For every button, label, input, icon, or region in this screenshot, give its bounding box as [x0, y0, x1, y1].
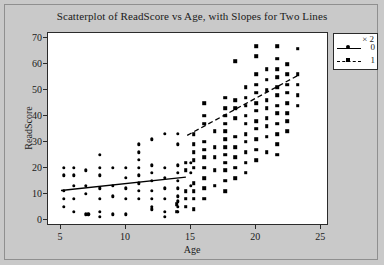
data-point-1 [192, 132, 196, 136]
x-tick-mark [320, 225, 321, 229]
data-point-1 [234, 176, 238, 180]
legend: × 2 01 [333, 33, 378, 70]
data-point-1 [254, 83, 258, 87]
data-point-1 [192, 166, 196, 170]
data-point-1 [234, 145, 238, 149]
y-tick-mark [43, 115, 47, 116]
y-tick-mark [43, 141, 47, 142]
data-point-1 [254, 119, 258, 123]
data-point-1 [296, 83, 300, 87]
x-tick-label: 10 [110, 231, 140, 242]
data-point-1 [286, 101, 290, 105]
fit-line-1 [187, 75, 298, 135]
data-point-1 [184, 205, 188, 209]
data-point-1 [192, 181, 196, 185]
y-tick-label: 60 [18, 58, 42, 69]
data-point-1 [286, 91, 290, 95]
data-point-1 [286, 112, 290, 116]
data-point-1 [202, 187, 206, 191]
data-point-1 [286, 62, 290, 66]
data-point-1 [192, 158, 196, 162]
data-point-1 [275, 143, 279, 147]
data-point-1 [254, 158, 258, 162]
y-tick-label: 20 [18, 161, 42, 172]
data-point-1 [275, 93, 279, 97]
x-tick-label: 25 [305, 231, 335, 242]
data-point-1 [244, 122, 248, 126]
data-point-1 [223, 106, 227, 110]
data-point-1 [202, 156, 206, 160]
data-point-1 [202, 148, 206, 152]
data-point-1 [223, 169, 227, 173]
x-tick-mark [60, 225, 61, 229]
data-point-1 [223, 122, 227, 126]
data-point-1 [213, 169, 217, 173]
data-point-1 [244, 132, 248, 136]
data-point-1 [213, 130, 217, 134]
data-point-1 [223, 161, 227, 165]
data-point-1 [275, 112, 279, 116]
data-point-1 [234, 156, 238, 160]
data-point-1 [223, 189, 227, 193]
plot-area [47, 32, 328, 225]
legend-marker-square [346, 58, 350, 62]
y-tick-label: 40 [18, 109, 42, 120]
data-point-1 [192, 197, 196, 201]
data-point-1 [244, 86, 248, 90]
data-point-1 [286, 83, 290, 87]
data-point-1 [244, 171, 248, 175]
data-point-1 [223, 96, 227, 100]
data-point-1 [265, 150, 269, 154]
y-tick-label: 70 [18, 32, 42, 43]
chart-title: Scatterplot of ReadScore vs Age, with Sl… [0, 10, 384, 22]
data-point-1 [286, 73, 290, 77]
legend-item-0[interactable]: 0 [334, 43, 379, 54]
data-point-1 [275, 57, 279, 61]
data-point-1 [192, 150, 196, 154]
data-point-1 [184, 189, 188, 193]
data-point-1 [254, 137, 258, 141]
data-point-1 [265, 106, 269, 110]
legend-item-1[interactable]: 1 [334, 56, 379, 67]
data-point-1 [286, 119, 290, 123]
data-point-1 [192, 189, 196, 193]
data-point-1 [234, 166, 238, 170]
y-tick-mark [43, 89, 47, 90]
data-point-1 [275, 132, 279, 136]
y-tick-mark [43, 193, 47, 194]
data-point-1 [184, 169, 188, 173]
data-point-1 [265, 67, 269, 71]
data-point-1 [213, 184, 217, 188]
data-point-1 [286, 130, 290, 134]
data-point-1 [184, 197, 188, 201]
data-point-1 [296, 73, 300, 77]
data-point-1 [213, 145, 217, 149]
legend-label-1: 1 [371, 55, 376, 65]
data-point-1 [254, 91, 258, 95]
data-point-1 [175, 202, 179, 206]
y-tick-label: 0 [18, 213, 42, 224]
data-point-1 [265, 88, 269, 92]
data-point-1 [223, 179, 227, 183]
data-point-1 [234, 60, 238, 64]
data-point-1 [244, 96, 248, 100]
data-point-1 [275, 75, 279, 79]
data-point-1 [296, 104, 300, 108]
data-point-1 [254, 148, 258, 152]
data-point-1 [244, 161, 248, 165]
data-point-1 [223, 130, 227, 134]
data-point-1 [254, 127, 258, 131]
y-tick-mark [43, 167, 47, 168]
data-point-1 [275, 153, 279, 157]
data-point-1 [244, 140, 248, 144]
data-point-1 [244, 150, 248, 154]
data-point-1 [223, 114, 227, 118]
y-tick-mark [43, 37, 47, 38]
data-point-1 [202, 122, 206, 126]
data-point-1 [254, 101, 258, 105]
data-point-1 [275, 122, 279, 126]
data-point-1 [223, 145, 227, 149]
y-tick-label: 30 [18, 135, 42, 146]
data-point-1 [234, 117, 238, 121]
y-tick-mark [43, 63, 47, 64]
